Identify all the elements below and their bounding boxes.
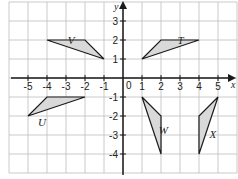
origin-label: 0 <box>126 80 132 91</box>
x-tick-label: -2 <box>81 81 90 92</box>
x-tick-label: 3 <box>177 81 183 92</box>
coordinate-grid: TVUWX -5-4-3-2-112345321-1-2-3-40xy <box>0 0 238 179</box>
y-tick-label: -1 <box>109 92 118 103</box>
y-axis-label: y <box>113 1 119 12</box>
x-tick-label: 5 <box>215 81 221 92</box>
x-tick-label: 1 <box>139 81 145 92</box>
y-tick-label: 3 <box>112 16 118 27</box>
triangle-v <box>47 40 104 59</box>
x-tick-label: -4 <box>43 81 52 92</box>
triangle-u <box>28 97 85 116</box>
shape-label-u: U <box>38 116 47 128</box>
shape-label-x: X <box>209 128 218 140</box>
triangle-x <box>199 97 218 154</box>
x-tick-label: 2 <box>158 81 164 92</box>
y-tick-label: -2 <box>109 111 118 122</box>
y-tick-label: 2 <box>112 35 118 46</box>
shape-label-w: W <box>159 124 169 136</box>
x-tick-label: -3 <box>62 81 71 92</box>
y-tick-label: -3 <box>109 130 118 141</box>
shape-label-t: T <box>178 34 185 46</box>
y-tick-label: -4 <box>109 149 118 160</box>
y-tick-label: 1 <box>112 54 118 65</box>
x-tick-label: -1 <box>100 81 109 92</box>
x-axis-label: x <box>230 79 236 90</box>
x-tick-label: 4 <box>196 81 202 92</box>
x-tick-label: -5 <box>24 81 33 92</box>
triangle-t <box>142 40 199 59</box>
